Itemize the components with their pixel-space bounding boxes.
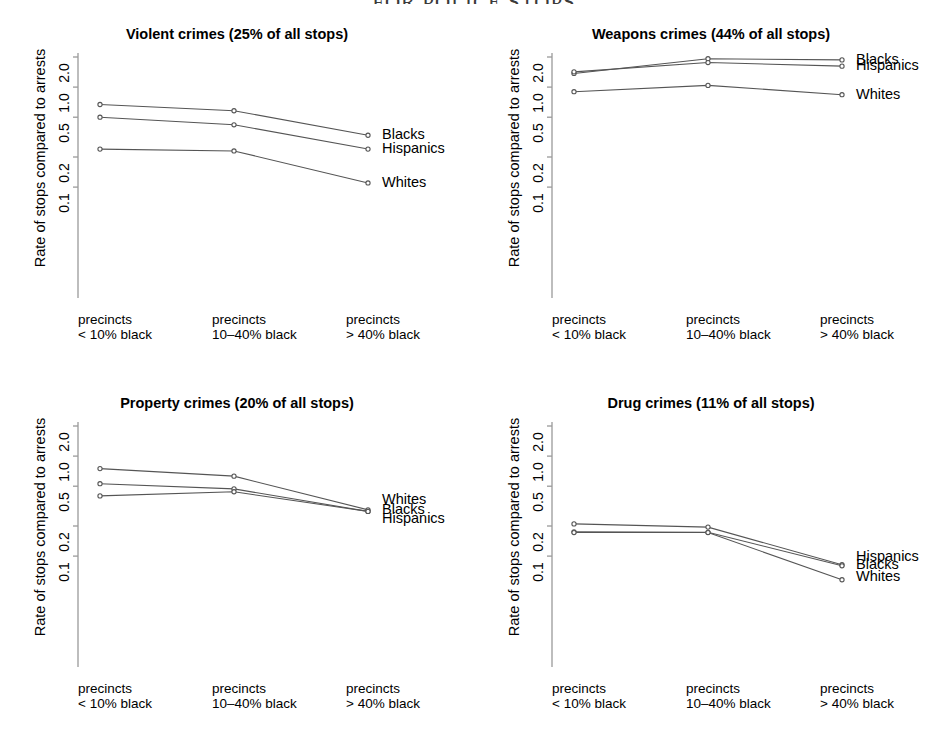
x-axis-tick-label-3: precincts> 40% black <box>346 681 420 711</box>
x-axis-tick-label-3: precincts> 40% black <box>820 312 894 342</box>
data-point <box>232 109 236 113</box>
data-point <box>98 102 102 106</box>
x-axis-tick-label-2: precincts10–40% black <box>212 681 297 711</box>
x-axis-tick-line1: precincts <box>686 681 771 696</box>
data-point <box>232 123 236 127</box>
x-axis-tick-label-2: precincts10–40% black <box>686 681 771 711</box>
data-point <box>232 474 236 478</box>
x-axis-tick-line2: 10–40% black <box>686 696 771 711</box>
series-line-whites <box>100 149 368 183</box>
x-axis-tick-line2: 10–40% black <box>212 327 297 342</box>
x-axis-tick-label-1: precincts< 10% black <box>78 312 152 342</box>
series-label-hispanics: Hispanics <box>382 140 445 156</box>
x-axis-tick-line2: < 10% black <box>78 327 152 342</box>
x-axis-tick-label-3: precincts> 40% black <box>346 312 420 342</box>
x-axis-tick-line1: precincts <box>212 681 297 696</box>
data-point <box>98 466 102 470</box>
data-point <box>366 147 370 151</box>
series-label-whites: Whites <box>382 174 426 190</box>
panel-violent-crimes: Violent crimes (25% of all stops)Rate of… <box>0 0 474 368</box>
data-point <box>366 133 370 137</box>
data-point <box>572 90 576 94</box>
data-point <box>366 181 370 185</box>
data-point <box>98 494 102 498</box>
panel-weapons-crimes: Weapons crimes (44% of all stops)Rate of… <box>474 0 948 368</box>
data-point <box>706 525 710 529</box>
data-point <box>840 578 844 582</box>
data-point <box>840 564 844 568</box>
x-axis-tick-line2: < 10% black <box>78 696 152 711</box>
x-axis-tick-label-1: precincts< 10% black <box>78 681 152 711</box>
x-axis-tick-label-1: precincts< 10% black <box>552 681 626 711</box>
x-axis-tick-line2: 10–40% black <box>212 696 297 711</box>
data-point <box>840 64 844 68</box>
data-point <box>98 147 102 151</box>
series-line-blacks <box>574 532 842 566</box>
x-axis-tick-line2: > 40% black <box>820 327 894 342</box>
data-point <box>572 70 576 74</box>
data-point <box>706 60 710 64</box>
series-label-hispanics: Hispanics <box>856 57 919 73</box>
data-point <box>706 83 710 87</box>
x-axis-tick-line1: precincts <box>346 312 420 327</box>
x-axis-tick-line2: < 10% black <box>552 327 626 342</box>
series-label-whites: Whites <box>856 86 900 102</box>
series-label-whites: Whites <box>856 568 900 584</box>
data-point <box>98 482 102 486</box>
x-axis-tick-line1: precincts <box>212 312 297 327</box>
x-axis-tick-line1: precincts <box>820 681 894 696</box>
x-axis-tick-line1: precincts <box>552 312 626 327</box>
x-axis-tick-line1: precincts <box>552 681 626 696</box>
x-axis-tick-line1: precincts <box>686 312 771 327</box>
series-line-hispanics <box>100 117 368 149</box>
x-axis-tick-line2: 10–40% black <box>686 327 771 342</box>
data-point <box>840 58 844 62</box>
x-axis-tick-line2: < 10% black <box>552 696 626 711</box>
data-point <box>98 115 102 119</box>
data-point <box>232 490 236 494</box>
data-point <box>706 530 710 534</box>
x-axis-tick-line2: > 40% black <box>820 696 894 711</box>
panel-property-crimes: Property crimes (20% of all stops)Rate o… <box>0 369 474 737</box>
x-axis-tick-line2: > 40% black <box>346 327 420 342</box>
x-axis-tick-line1: precincts <box>78 681 152 696</box>
data-point <box>840 93 844 97</box>
x-axis-tick-line1: precincts <box>346 681 420 696</box>
x-axis-tick-label-2: precincts10–40% black <box>686 312 771 342</box>
data-point <box>572 522 576 526</box>
x-axis-tick-label-2: precincts10–40% black <box>212 312 297 342</box>
x-axis-tick-line1: precincts <box>820 312 894 327</box>
data-point <box>366 509 370 513</box>
x-axis-tick-label-3: precincts> 40% black <box>820 681 894 711</box>
panel-drug-crimes: Drug crimes (11% of all stops)Rate of st… <box>474 369 948 737</box>
data-point <box>232 149 236 153</box>
x-axis-tick-line1: precincts <box>78 312 152 327</box>
x-axis-tick-line2: > 40% black <box>346 696 420 711</box>
figure-root: FOR POLICE STOPS Violent crimes (25% of … <box>0 0 948 737</box>
x-axis-tick-label-1: precincts< 10% black <box>552 312 626 342</box>
series-label-hispanics: Hispanics <box>382 510 445 526</box>
series-line-hispanics <box>100 492 368 512</box>
data-point <box>572 530 576 534</box>
